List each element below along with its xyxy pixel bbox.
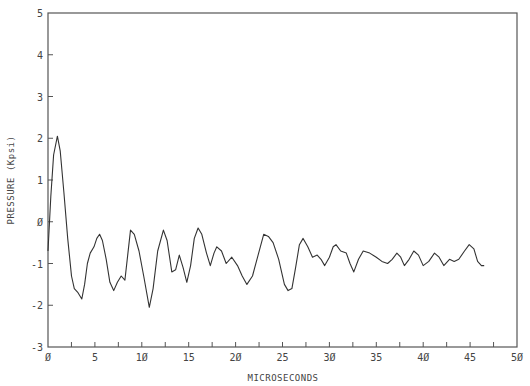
x-tick-label: Ø [45,352,51,363]
x-tick-label: 35 [370,352,382,363]
x-tick-label: 3Ø [323,352,335,363]
y-tick-label: 1 [37,175,43,186]
y-tick-label: 2 [37,133,43,144]
y-tick-label: 5 [37,8,43,19]
y-axis-ticks: -3-2-1Ø12345 [31,8,53,353]
x-tick-label: 15 [183,352,195,363]
y-tick-label: -2 [31,300,43,311]
y-tick-label: 3 [37,92,43,103]
plot-border [48,13,517,347]
x-tick-label: 5Ø [511,352,523,363]
x-tick-label: 25 [276,352,288,363]
pressure-chart: Ø51Ø152Ø253Ø354Ø455Ø -3-2-1Ø12345 MICROS… [0,0,530,386]
x-tick-label: 5 [92,352,98,363]
pressure-trace [48,136,484,307]
x-axis-title: MICROSECONDS [247,373,318,383]
plot-frame [48,13,517,347]
y-tick-label: 4 [37,50,43,61]
x-tick-label: 4Ø [417,352,429,363]
y-tick-label: -1 [31,259,43,270]
x-tick-label: 45 [464,352,476,363]
y-axis-title: PRESSURE (Kpsi) [6,136,16,225]
y-tick-label: -3 [31,342,43,353]
x-axis-ticks: Ø51Ø152Ø253Ø354Ø455Ø [45,342,523,363]
x-tick-label: 2Ø [230,352,242,363]
x-tick-label: 1Ø [136,352,148,363]
y-tick-label: Ø [37,217,43,228]
